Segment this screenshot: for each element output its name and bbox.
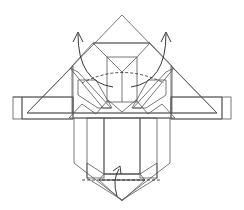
fold-arrow-bottom-up (113, 166, 121, 196)
lower-band (69, 100, 175, 118)
left-wing (13, 66, 73, 119)
origami-diagram (0, 0, 244, 210)
lower-body (74, 118, 170, 201)
center-panel (70, 43, 174, 113)
right-wing (171, 66, 231, 119)
